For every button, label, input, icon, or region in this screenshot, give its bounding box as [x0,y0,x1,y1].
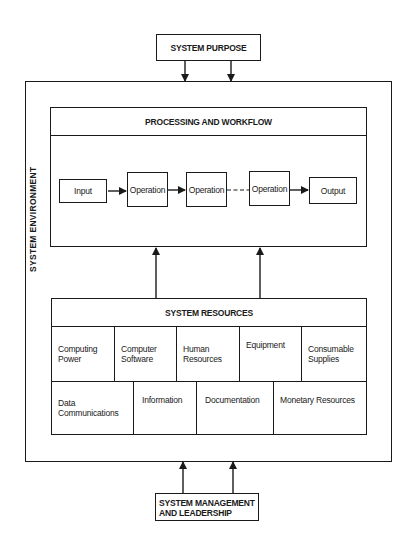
workflow-step-input: Input [59,179,107,203]
resources-row-1: Computing Power Computer Software Human … [52,326,366,382]
system-management-box: SYSTEM MANAGEMENT AND LEADERSHIP [155,493,259,521]
resource-label: Monetary Resources [280,395,355,405]
workflow-step-label: Output [321,186,345,196]
workflow-step-label: Input [74,186,92,196]
resource-label: Information [142,395,182,405]
system-management-line1: SYSTEM MANAGEMENT [159,498,258,508]
system-environment-label: SYSTEM ENVIRONMENT [28,178,38,272]
resource-label: Data Communications [58,398,133,418]
processing-workflow-header: PROCESSING AND WORKFLOW [51,108,366,136]
resource-equipment: Equipment [240,326,302,381]
workflow-step-label: Operation [189,185,225,195]
system-resources-title: SYSTEM RESOURCES [165,308,253,318]
resource-label: Consumable Supplies [308,344,365,364]
resource-label: Documentation [205,395,260,405]
resource-documentation: Documentation [197,381,274,434]
resources-row-2: Data Communications Information Document… [52,381,366,434]
system-management-line2: AND LEADERSHIP [159,508,258,518]
workflow-step-label: Operation [130,185,166,195]
resource-consumable-supplies: Consumable Supplies [302,326,365,381]
resource-computer-software: Computer Software [115,326,177,381]
resource-data-communications: Data Communications [52,381,134,434]
resource-label: Computer Software [121,344,176,364]
resource-computing-power: Computing Power [52,326,115,381]
resource-information: Information [134,381,197,434]
resource-human-resources: Human Resources [177,326,240,381]
workflow-step-label: Operation [252,184,288,194]
resource-label: Human Resources [183,344,239,364]
workflow-step-operation: Operation [249,171,290,206]
resource-label: Equipment [246,340,285,350]
workflow-step-output: Output [309,177,357,204]
processing-workflow-title: PROCESSING AND WORKFLOW [145,117,272,127]
system-resources-header: SYSTEM RESOURCES [52,299,366,327]
system-resources-box: SYSTEM RESOURCES Computing Power Compute… [51,298,367,435]
workflow-step-operation: Operation [186,172,227,207]
workflow-step-operation: Operation [127,172,168,207]
system-purpose-box: SYSTEM PURPOSE [156,34,261,61]
resource-monetary-resources: Monetary Resources [274,381,366,434]
system-purpose-label: SYSTEM PURPOSE [170,43,246,53]
resource-label: Computing Power [58,344,114,364]
